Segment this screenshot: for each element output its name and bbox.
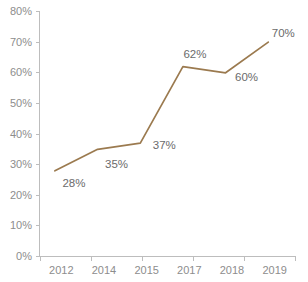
data-label-2019: 70% — [272, 27, 295, 39]
data-label-2015: 37% — [153, 139, 176, 151]
y-axis-ticks — [36, 12, 40, 257]
y-tick-label-0: 0% — [16, 250, 32, 262]
chart-canvas: 80% 70% 60% 50% 40% 30% 20% 10% 0% 2012 … — [0, 0, 308, 282]
x-tick-label-2018: 2018 — [220, 264, 244, 276]
data-label-2017: 62% — [183, 48, 206, 60]
x-tick-label-2012: 2012 — [49, 264, 73, 276]
y-tick-label-10: 10% — [10, 219, 32, 231]
y-tick-label-30: 30% — [10, 158, 32, 170]
x-tick-label-2014: 2014 — [92, 264, 116, 276]
x-tick-label-2019: 2019 — [262, 264, 286, 276]
y-tick-label-80: 80% — [10, 5, 32, 17]
data-label-2014: 35% — [105, 158, 128, 170]
y-tick-label-50: 50% — [10, 97, 32, 109]
x-tick-label-2017: 2017 — [177, 264, 201, 276]
y-tick-label-40: 40% — [10, 128, 32, 140]
data-label-2012: 28% — [62, 177, 85, 189]
data-label-2018: 60% — [235, 71, 258, 83]
y-tick-label-20: 20% — [10, 189, 32, 201]
line-chart: 80% 70% 60% 50% 40% 30% 20% 10% 0% 2012 … — [0, 0, 308, 282]
x-axis-ticks — [41, 257, 296, 262]
y-tick-label-60: 60% — [10, 66, 32, 78]
y-tick-label-70: 70% — [10, 36, 32, 48]
series-line-path — [55, 42, 268, 171]
x-tick-label-2015: 2015 — [134, 264, 158, 276]
